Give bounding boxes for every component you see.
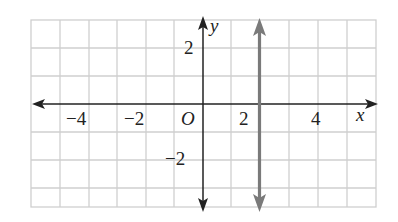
y-tick-label: 2 <box>184 37 194 58</box>
vertical-line-x-equals-2 <box>253 18 266 212</box>
x-tick-label: −4 <box>66 108 87 129</box>
x-tick-label: −2 <box>124 108 144 129</box>
y-axis-label: y <box>208 15 219 36</box>
y-tick-label: −2 <box>165 148 185 169</box>
x-axis-label: x <box>355 104 365 125</box>
x-tick-label: 4 <box>311 108 321 129</box>
coordinate-plane: −4 −2 2 4 O x y 2 −2 <box>0 0 398 222</box>
x-tick-label: 2 <box>239 108 249 129</box>
origin-label: O <box>181 108 195 129</box>
